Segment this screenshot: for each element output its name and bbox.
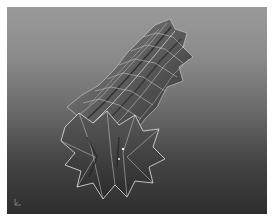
mesh-render[interactable] [7, 7, 267, 214]
3d-viewport[interactable] [7, 7, 267, 214]
mesh-end-cap [61, 111, 165, 199]
axis-orientation-icon [12, 196, 24, 208]
